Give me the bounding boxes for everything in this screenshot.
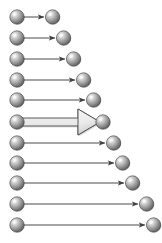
sphere-body	[86, 93, 100, 107]
sphere-source	[10, 10, 25, 25]
sphere-target	[106, 136, 121, 151]
arrow-rows-layer	[10, 10, 161, 233]
sphere-target	[139, 197, 154, 212]
sphere-body	[115, 156, 129, 170]
sphere-body	[106, 136, 120, 150]
sphere-body	[10, 197, 24, 211]
sphere-target	[76, 73, 91, 88]
sphere-source	[10, 136, 25, 151]
sphere-target	[86, 93, 101, 108]
sphere-source	[10, 218, 25, 233]
sphere-target	[96, 115, 111, 130]
arrow-row[interactable]	[10, 10, 60, 25]
sphere-target	[146, 218, 161, 233]
arrow-row[interactable]	[10, 156, 130, 171]
diagram-svg	[0, 0, 162, 243]
arrow-row[interactable]	[10, 109, 111, 137]
sphere-body	[10, 93, 24, 107]
sphere-target	[56, 31, 71, 46]
sphere-source	[10, 93, 25, 108]
sphere-body	[10, 115, 24, 129]
sphere-body	[66, 52, 80, 66]
arrow-row[interactable]	[10, 31, 71, 46]
sphere-body	[10, 176, 24, 190]
sphere-body	[56, 31, 70, 45]
arrow-row[interactable]	[10, 52, 81, 67]
sphere-body	[10, 218, 24, 232]
arrow-row[interactable]	[10, 218, 161, 233]
arrow-row[interactable]	[10, 197, 154, 212]
sphere-target	[125, 176, 140, 191]
sphere-source	[10, 156, 25, 171]
sphere-source	[10, 115, 25, 130]
sphere-source	[10, 73, 25, 88]
arrow-row[interactable]	[10, 73, 91, 88]
sphere-target	[45, 10, 60, 25]
sphere-source	[10, 52, 25, 67]
sphere-body	[96, 115, 110, 129]
arrow-row[interactable]	[10, 136, 121, 151]
sphere-body	[76, 73, 90, 87]
sphere-body	[139, 197, 153, 211]
sphere-body	[146, 218, 160, 232]
sphere-body	[45, 10, 59, 24]
sphere-target	[66, 52, 81, 67]
sphere-body	[10, 136, 24, 150]
arrow-row[interactable]	[10, 176, 140, 191]
sphere-body	[10, 73, 24, 87]
sphere-body	[10, 156, 24, 170]
sphere-source	[10, 31, 25, 46]
sphere-body	[10, 31, 24, 45]
sphere-source	[10, 197, 25, 212]
sphere-source	[10, 176, 25, 191]
sphere-target	[115, 156, 130, 171]
arrow-row[interactable]	[10, 93, 101, 108]
sphere-body	[10, 52, 24, 66]
sphere-body	[10, 10, 24, 24]
sphere-body	[125, 176, 139, 190]
diagram-canvas	[0, 0, 162, 243]
